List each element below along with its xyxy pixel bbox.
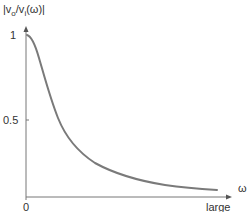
x-tick-label-large: large xyxy=(206,202,230,212)
response-curve xyxy=(27,35,217,190)
y-tick-label-1: 1 xyxy=(10,30,16,41)
x-axis-arrow-icon xyxy=(226,195,232,200)
y-axis-title-part: (ω)| xyxy=(26,3,45,15)
x-tick-label-0: 0 xyxy=(23,202,29,212)
y-tick-label-half: 0.5 xyxy=(3,115,18,126)
y-axis-title: |vo/vi(ω)| xyxy=(3,4,45,18)
x-axis-title: ω xyxy=(238,183,247,194)
y-axis-arrow-icon xyxy=(24,26,29,32)
chart-plot-area xyxy=(0,0,249,212)
